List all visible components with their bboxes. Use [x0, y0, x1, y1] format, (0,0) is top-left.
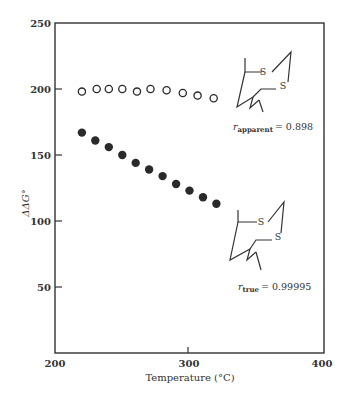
data-point — [105, 85, 112, 92]
data-point — [119, 85, 126, 92]
r-apparent-annotation: rapparent= 0.898 — [233, 121, 313, 134]
data-point — [105, 143, 113, 151]
data-point — [91, 136, 99, 144]
x-tick-300: 300 — [179, 358, 200, 369]
data-point — [199, 193, 207, 201]
x-tick-200: 200 — [45, 358, 66, 369]
r-value: = 0.99995 — [261, 281, 311, 292]
data-point — [132, 159, 140, 167]
sulfur-atom-label: S — [258, 216, 265, 227]
r-true-annotation: rtrue= 0.99995 — [238, 281, 311, 294]
sulfur-atom-label: S — [260, 66, 267, 77]
r-subscript: true — [243, 285, 260, 294]
y-axis: 250 200 150 100 50 — [30, 18, 62, 293]
data-point — [158, 172, 166, 180]
data-point — [78, 128, 86, 136]
data-point — [145, 165, 153, 173]
data-point — [93, 85, 100, 92]
y-tick-50: 50 — [37, 282, 51, 293]
data-point — [163, 87, 170, 94]
x-axis-title: Temperature (°C) — [145, 372, 234, 383]
r-subscript: apparent — [238, 125, 274, 134]
sulfur-atom-label: S — [275, 231, 282, 242]
r-value: = 0.898 — [275, 121, 313, 132]
data-point — [212, 200, 220, 208]
y-tick-250: 250 — [30, 18, 51, 29]
data-point — [185, 186, 193, 194]
y-axis-title: ΔΔG° — [20, 189, 31, 217]
y-tick-100: 100 — [30, 216, 51, 227]
x-axis: 200 300 400 — [45, 347, 333, 369]
series-true-filled-circles — [78, 128, 221, 208]
data-point — [179, 89, 186, 96]
sulfur-atom-label: S — [280, 80, 287, 91]
data-point — [147, 85, 154, 92]
data-point — [194, 92, 201, 99]
data-point — [118, 151, 126, 159]
data-point — [210, 95, 217, 102]
data-point — [78, 88, 85, 95]
y-tick-200: 200 — [30, 84, 51, 95]
scatter-chart: 250 200 150 100 50 ΔΔG° 200 300 400 Temp… — [0, 0, 351, 395]
y-tick-150: 150 — [30, 150, 51, 161]
x-tick-400: 400 — [312, 358, 333, 369]
data-point — [172, 180, 180, 188]
series-apparent-open-circles — [78, 85, 217, 101]
data-point — [133, 88, 140, 95]
